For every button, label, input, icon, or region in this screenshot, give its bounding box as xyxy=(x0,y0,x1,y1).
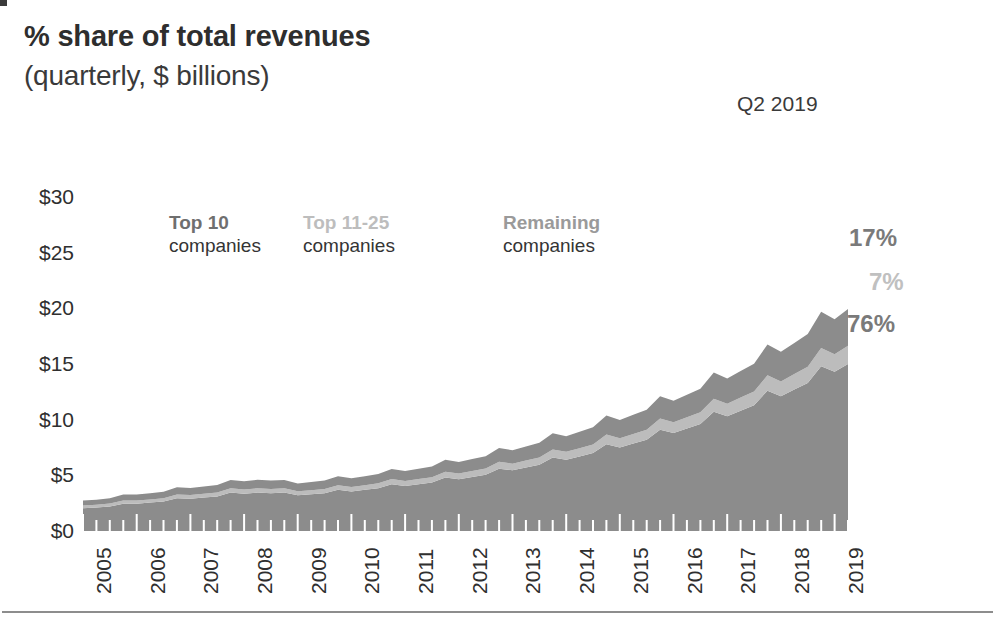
x-axis-tick-label: 2016 xyxy=(683,547,707,594)
x-axis-tick-label: 2013 xyxy=(521,547,545,594)
x-axis-tick-label: 2007 xyxy=(199,547,223,594)
x-axis-tick-label: 2015 xyxy=(629,547,653,594)
x-axis-tick-label: 2009 xyxy=(307,547,331,594)
x-axis-tick-label: 2005 xyxy=(92,547,116,594)
x-axis-tick-label: 2008 xyxy=(253,547,277,594)
x-axis-tick-label: 2010 xyxy=(360,547,384,594)
x-axis-tick-label: 2014 xyxy=(575,547,599,594)
x-axis-tick-label: 2011 xyxy=(414,549,438,594)
x-axis: 2005200620072008200920102011201220132014… xyxy=(0,0,995,626)
chart-figure: % share of total revenues (quarterly, $ … xyxy=(0,0,995,626)
bottom-divider xyxy=(2,611,993,613)
x-axis-tick-label: 2006 xyxy=(146,547,170,594)
x-axis-tick-label: 2019 xyxy=(844,547,868,594)
x-axis-tick-label: 2012 xyxy=(468,547,492,594)
x-axis-tick-label: 2018 xyxy=(790,547,814,594)
x-axis-tick-label: 2017 xyxy=(736,547,760,594)
